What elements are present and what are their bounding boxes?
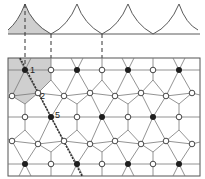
label-2: 2 <box>40 91 45 101</box>
label-5: 5 <box>55 110 60 120</box>
label-1: 1 <box>30 65 35 75</box>
lattice-diagram: 1 2 5 <box>0 0 205 179</box>
